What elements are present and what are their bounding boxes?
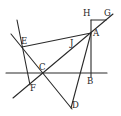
label-c: C	[39, 62, 46, 72]
label-j: J	[69, 38, 74, 48]
diagram-canvas: A B C D E F G H J	[0, 0, 121, 116]
segment-e-a	[22, 33, 91, 47]
label-f: F	[30, 83, 36, 93]
line-g-a-c-f	[13, 14, 113, 98]
geometry-diagram: A B C D E F G H J	[0, 0, 121, 116]
label-a: A	[92, 28, 100, 38]
segment-a-d	[71, 33, 91, 108]
label-h: H	[83, 8, 90, 18]
label-d: D	[72, 100, 79, 110]
line-e-f	[17, 20, 30, 85]
label-b: B	[87, 76, 93, 86]
label-g: G	[104, 8, 111, 18]
label-e: E	[21, 36, 27, 46]
